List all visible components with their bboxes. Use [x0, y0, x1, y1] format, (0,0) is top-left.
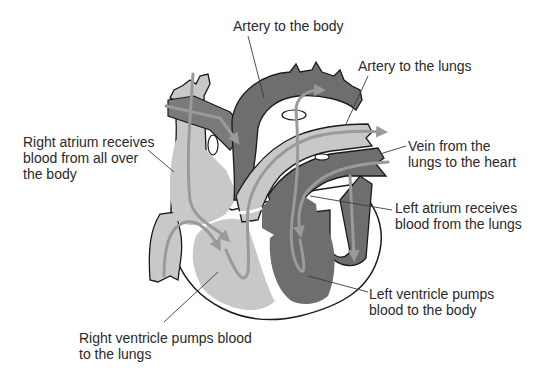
label-vein-from-lungs: Vein from the lungs to the heart	[408, 138, 516, 170]
label-artery-to-lungs: Artery to the lungs	[358, 58, 472, 74]
vessel-opening	[282, 110, 306, 120]
label-left-atrium: Left atrium receives blood from the lung…	[395, 200, 522, 232]
vessel-opening	[315, 154, 329, 160]
heart-diagram	[0, 0, 536, 376]
label-right-ventricle: Right ventricle pumps blood to the lungs	[79, 330, 252, 362]
label-artery-to-body: Artery to the body	[233, 18, 344, 34]
label-left-ventricle: Left ventricle pumps blood to the body	[369, 286, 494, 318]
vessel-opening	[208, 135, 218, 155]
label-right-atrium: Right atrium receives blood from all ove…	[23, 134, 155, 182]
